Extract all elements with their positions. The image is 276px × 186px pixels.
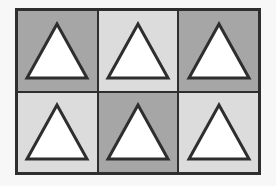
triangle-icon — [105, 102, 171, 162]
triangle-icon — [24, 102, 90, 162]
triangle-grid — [15, 8, 261, 175]
grid-cell-0-0 — [18, 11, 97, 91]
grid-cell-1-1 — [99, 93, 178, 173]
triangle-icon — [24, 21, 90, 81]
triangle-icon — [186, 102, 252, 162]
grid-cell-1-2 — [179, 93, 258, 173]
triangle-icon — [105, 21, 171, 81]
grid-cell-1-0 — [18, 93, 97, 173]
grid-cell-0-2 — [179, 11, 258, 91]
grid-cell-0-1 — [99, 11, 178, 91]
triangle-icon — [186, 21, 252, 81]
